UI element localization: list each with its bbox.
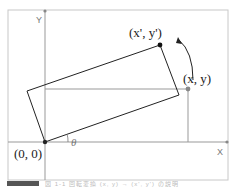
y-axis-tip (43, 9, 46, 12)
origin-point (43, 140, 47, 144)
caption-marker (7, 181, 39, 186)
figure-caption: 図 1-1 回転変換 (x, y) → (x', y') の説明 (7, 180, 179, 187)
arrowhead-icon (176, 37, 182, 44)
rotated-point-label: (x', y') (129, 25, 162, 40)
angle-arc (67, 134, 68, 142)
rotation-diagram: Y X θ (0, 0) (x', y') (x, y) (0, 0, 235, 187)
origin-label: (0, 0) (14, 146, 42, 161)
rotated-point (158, 43, 163, 48)
x-axis-tip (225, 140, 228, 143)
theta-label: θ (71, 136, 77, 148)
y-axis-label: Y (36, 15, 42, 25)
rotated-rectangle (27, 45, 179, 142)
original-point (186, 87, 191, 92)
caption-text: 図 1-1 回転変換 (x, y) → (x', y') の説明 (45, 179, 179, 187)
original-point-label: (x, y) (183, 71, 211, 86)
x-axis-label: X (217, 147, 223, 157)
